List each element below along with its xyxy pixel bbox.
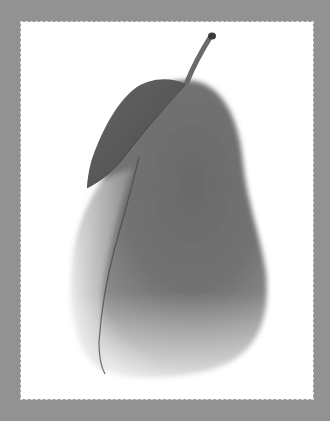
pear-illustration [21,22,313,399]
photo-panel [21,22,313,399]
pear-stem [187,36,211,82]
